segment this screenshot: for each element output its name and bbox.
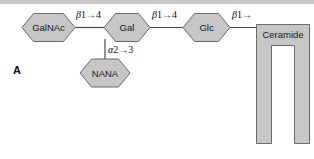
residue-label: NANA (92, 68, 119, 79)
svg-text:α2→3: α2→3 (108, 44, 133, 55)
residue-label: GalNAc (32, 22, 65, 33)
ceramide-shape (257, 25, 310, 144)
svg-text:β1→: β1→ (231, 9, 252, 20)
residue-label: Glc (199, 22, 214, 33)
linkage-gal-nana: α2→3 (108, 44, 133, 55)
linkage-glc-ceramide: β1→ (231, 9, 252, 20)
glycosphingolipid-diagram: A Ceramide GalNAc Gal G (0, 0, 314, 159)
residue-galnac: GalNAc (22, 14, 75, 42)
residue-glc: Glc (183, 14, 230, 42)
linkage-gal-glc: β1→4 (151, 9, 177, 20)
connector-lines (75, 28, 266, 60)
diagram-canvas: Ceramide GalNAc Gal Glc NANA β1→4 β (0, 0, 314, 159)
residue-gal: Gal (104, 14, 150, 42)
ceramide-group: Ceramide (257, 25, 310, 144)
residue-nana: NANA (80, 59, 130, 87)
svg-text:β1→4: β1→4 (75, 9, 101, 20)
residue-label: Gal (120, 22, 135, 33)
linkage-galnac-gal: β1→4 (75, 9, 101, 20)
linkage-text: 1→4 (81, 9, 101, 20)
ceramide-label: Ceramide (262, 29, 303, 40)
linkage-text: 1→ (237, 9, 252, 20)
linkage-text: 2→3 (113, 44, 133, 55)
svg-text:β1→4: β1→4 (151, 9, 177, 20)
linkage-text: 1→4 (157, 9, 177, 20)
